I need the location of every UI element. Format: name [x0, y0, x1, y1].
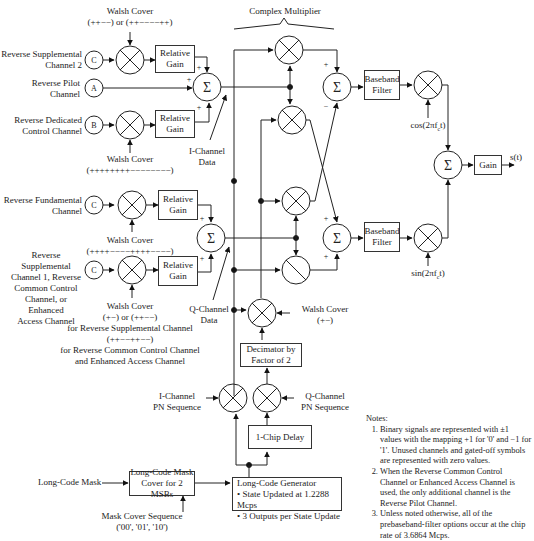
notes-heading: Notes: [366, 414, 532, 425]
note-1: Binary signals are represented with ±1 v… [380, 425, 532, 467]
q-channel-data-label: Q-Channel Data [187, 304, 231, 326]
long-code-generator-block: Long-Code Generator • State Updated at 1… [232, 477, 342, 511]
svg-text:+: + [197, 63, 202, 72]
sum-i-symbol: Σ [203, 80, 211, 95]
relative-gain-dcch: Relative Gain [155, 110, 195, 138]
svg-text:B: B [91, 121, 96, 130]
walsh-cover-supp2: Walsh Cover (++−−) or (++−−−−++) [80, 6, 180, 28]
relative-gain-supp1: Relative Gain [158, 256, 198, 286]
svg-text:+: + [197, 103, 202, 112]
walsh-cover-decimator: Walsh Cover (+−) [295, 304, 355, 326]
mask-cover-sequence-label: Mask Cover Sequence ('00', '01', '10') [100, 511, 184, 533]
walsh-cover-fundamental: Walsh Cover (++++−−−−++++−−−−) [78, 235, 182, 257]
long-code-mask-cover-block: Long-Code Mask Cover for 2 MSBs [129, 471, 195, 496]
sin-carrier-label: sin(2πfct) [398, 268, 458, 283]
walsh-cover-dcch: Walsh Cover (++++++++−−−−−−−−) [78, 154, 182, 176]
baseband-filter-i: Baseband Filter [364, 70, 400, 100]
complex-multiplier-title: Complex Multiplier [240, 6, 330, 17]
long-code-mask-label: Long-Code Mask [38, 477, 108, 488]
cos-carrier-label: cos(2πfct) [398, 120, 458, 135]
long-code-generator-bullet-2: • 3 Outputs per State Update [237, 511, 340, 522]
sum-top-symbol: Σ [333, 80, 341, 95]
q-pn-sequence-label: Q-Channel PN Sequence [296, 391, 354, 413]
input-label-dedicated-control: Reverse Dedicated Control Channel [0, 115, 82, 137]
sum-final-symbol: Σ [444, 158, 452, 173]
long-code-generator-bullet-1: • State Updated at 1.2288 Mcps [237, 489, 341, 511]
notes-section: Notes: Binary signals are represented wi… [366, 414, 532, 541]
sum-bottom-symbol: Σ [333, 231, 341, 246]
svg-text:+: + [324, 252, 329, 261]
decimator-block: Decimator by Factor of 2 [240, 343, 302, 367]
gain-block: Gain [474, 155, 502, 175]
input-label-supplemental-2: Reverse Supplemental Channel 2 [0, 49, 82, 71]
svg-text:C: C [91, 56, 96, 65]
walsh-cover-supp1: Walsh Cover (+−) or (++−−) for Reverse S… [60, 301, 200, 367]
svg-text:+: + [200, 214, 205, 223]
relative-gain-fundamental: Relative Gain [158, 190, 198, 220]
svg-text:+: + [200, 254, 205, 263]
relative-gain-supp2: Relative Gain [155, 45, 195, 73]
i-channel-data-label: I-Channel Data [185, 146, 229, 168]
svg-text:+: + [187, 75, 192, 84]
baseband-filter-q: Baseband Filter [364, 222, 400, 252]
note-3: Unless noted otherwise, all of the preba… [380, 509, 532, 541]
i-pn-sequence-label: I-Channel PN Sequence [150, 391, 204, 413]
long-code-generator-title: Long-Code Generator [237, 478, 316, 489]
note-2: When the Reverse Common Control Channel … [380, 467, 532, 509]
input-label-fundamental: Reverse Fundamental Channel [0, 195, 82, 217]
output-label: s(t) [510, 152, 534, 163]
input-label-pilot: Reverse Pilot Channel [0, 78, 80, 100]
svg-text:C: C [91, 201, 96, 210]
svg-text:+: + [324, 60, 329, 69]
svg-text:−: − [324, 102, 329, 111]
sum-q-symbol: Σ [207, 231, 215, 246]
svg-text:+: + [324, 214, 329, 223]
svg-text:A: A [91, 84, 97, 93]
svg-text:C: C [91, 266, 96, 275]
one-chip-delay-block: 1-Chip Delay [248, 425, 312, 449]
